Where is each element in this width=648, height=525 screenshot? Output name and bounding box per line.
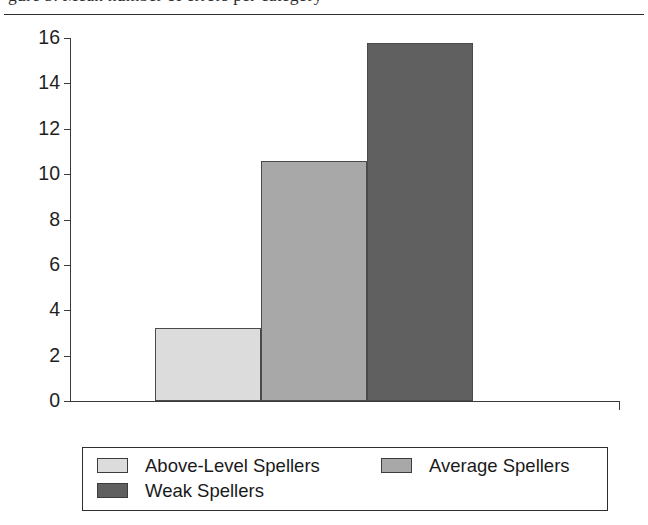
bar-above-level-spellers	[155, 328, 261, 401]
y-axis-tick-label: 14	[16, 73, 60, 92]
y-axis-tick-label: 8	[16, 210, 60, 229]
clipped-caption-strip: gure 5. Mean number of errors per catego…	[0, 0, 648, 14]
y-axis-tick-label: 2	[16, 346, 60, 365]
legend-swatch-icon	[97, 483, 128, 498]
legend-label: Weak Spellers	[145, 481, 264, 500]
y-axis-tick-label: 12	[16, 119, 60, 138]
x-axis-line	[70, 401, 620, 402]
x-axis-end-tick	[619, 401, 620, 410]
y-axis-tick-label: 16	[16, 28, 60, 47]
y-axis-tick	[64, 401, 71, 402]
horizontal-rule	[4, 14, 644, 15]
bar-chart: 0246810121416	[0, 20, 648, 420]
y-axis-tick-label: 6	[16, 255, 60, 274]
legend-item: Weak Spellers	[97, 481, 264, 500]
chart-legend: Above-Level SpellersAverage SpellersWeak…	[82, 447, 608, 511]
legend-swatch-icon	[97, 458, 128, 473]
y-axis-tick-label: 10	[16, 164, 60, 183]
y-axis-tick-label: 4	[16, 300, 60, 319]
bar-average-spellers	[261, 161, 367, 401]
clipped-caption-text: gure 5. Mean number of errors per catego…	[8, 0, 640, 6]
plot-bars	[70, 38, 620, 401]
legend-label: Average Spellers	[429, 456, 570, 475]
legend-label: Above-Level Spellers	[145, 456, 320, 475]
legend-item: Average Spellers	[381, 456, 570, 475]
bar-weak-spellers	[367, 43, 473, 401]
y-axis-tick-label: 0	[16, 391, 60, 410]
legend-item: Above-Level Spellers	[97, 456, 320, 475]
legend-swatch-icon	[381, 458, 412, 473]
